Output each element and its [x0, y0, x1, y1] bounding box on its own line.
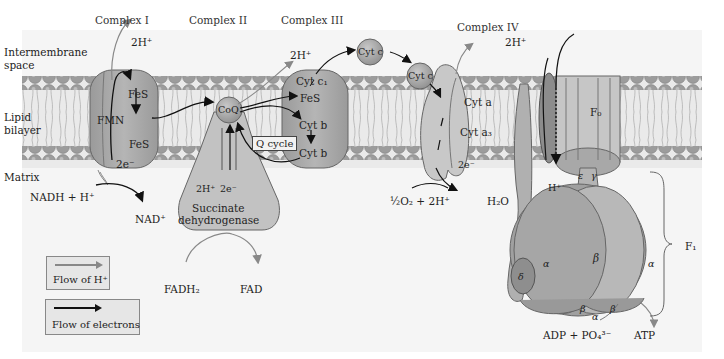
- intermembrane-label-2: space: [4, 59, 34, 71]
- complex1-fmn: FMN: [97, 114, 124, 126]
- complex-4-header: Complex IV: [457, 21, 519, 33]
- cyt-b-bottom: Cyt b: [299, 147, 327, 159]
- fad-product: FAD: [240, 283, 262, 295]
- cyt-b-top: Cyt b: [299, 119, 327, 131]
- complex-3-header: Complex III: [281, 14, 343, 26]
- alpha-left-subunit: α: [543, 258, 549, 270]
- oxygen-substrate: ½O₂ + 2H⁺: [390, 195, 450, 207]
- legend-electron-text: Flow of electrons: [52, 319, 140, 330]
- lipid-label-1: Lipid: [4, 111, 31, 123]
- adp-substrate: ADP + PO₄³⁻: [543, 329, 611, 341]
- legend-proton-flow: Flow of H⁺: [46, 256, 110, 290]
- complex4-cyt-c: Cyt c: [408, 70, 433, 82]
- legend-proton-text: Flow of H⁺: [53, 274, 108, 285]
- succinate-dh-label-1: Succinate: [192, 202, 245, 214]
- complex1-fes-bottom: FeS: [129, 138, 149, 150]
- cyt-a-label: Cyt a: [464, 96, 492, 108]
- nad-product: NAD⁺: [135, 213, 166, 225]
- complex-1-header: Complex I: [95, 14, 149, 26]
- gray-arrow-icon: [55, 264, 101, 266]
- alpha-bottom: α: [592, 311, 598, 323]
- f1-label: F₁: [685, 240, 697, 252]
- black-arrow-icon: [54, 307, 100, 309]
- succinate-dh-label-2: dehydrogenase: [178, 214, 259, 226]
- beta-bottom-left: β: [580, 303, 586, 315]
- delta-subunit: δ: [518, 271, 524, 283]
- complex2-protons: 2H⁺: [196, 183, 215, 195]
- complex4-electrons: 2e⁻: [458, 159, 475, 171]
- cyt-a3-label: Cyt a₃: [460, 126, 492, 138]
- cyt-c-mobile: Cyt c: [358, 46, 383, 58]
- complex1-proton-out: 2H⁺: [131, 36, 152, 48]
- epsilon-subunit: ε: [578, 170, 583, 182]
- h-plus-in: H⁺: [548, 182, 561, 194]
- alpha-right-subunit: α: [648, 258, 654, 270]
- complex3-fes: FeS: [300, 92, 320, 104]
- complex2-electrons: 2e⁻: [220, 183, 237, 195]
- coq-label: CoQ: [218, 104, 239, 116]
- cyt-c1-label: Cyt c₁: [296, 75, 328, 87]
- f0-label: F₀: [590, 106, 602, 118]
- complex4-proton-out: 2H⁺: [505, 36, 526, 48]
- legend-electron-flow: Flow of electrons: [45, 299, 140, 335]
- fadh2-substrate: FADH₂: [164, 283, 200, 295]
- lipid-label-2: bilayer: [4, 124, 41, 136]
- complex1-electrons: 2e⁻: [116, 158, 134, 170]
- beta-center-subunit: β: [593, 252, 599, 264]
- complex-2-header: Complex II: [189, 14, 247, 26]
- atp-product: ATP: [634, 329, 655, 341]
- electron-transport-chain-diagram: Complex I Complex II Complex III Complex…: [0, 0, 724, 359]
- q-cycle-box: Q cycle: [252, 136, 297, 151]
- gamma-subunit: γ: [591, 170, 597, 182]
- intermembrane-label-1: Intermembrane: [4, 46, 87, 58]
- beta-bottom-right: β: [610, 303, 616, 315]
- nadh-substrate: NADH + H⁺: [30, 191, 95, 203]
- water-product: H₂O: [487, 195, 509, 207]
- complex3-proton-out: 2H⁺: [290, 49, 311, 61]
- matrix-label: Matrix: [4, 171, 40, 183]
- complex1-fes-top: FeS: [128, 88, 148, 100]
